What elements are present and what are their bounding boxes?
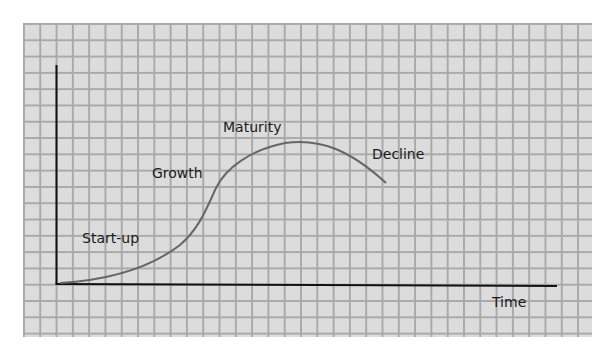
stage-label-maturity: Maturity [223, 119, 281, 135]
stage-label-decline: Decline [372, 146, 424, 162]
x-axis [56, 284, 558, 286]
life-cycle-curve [60, 142, 386, 283]
x-axis-label: Time [492, 294, 526, 310]
stage-label-growth: Growth [152, 165, 203, 181]
stage-label-startup: Start-up [82, 230, 139, 246]
